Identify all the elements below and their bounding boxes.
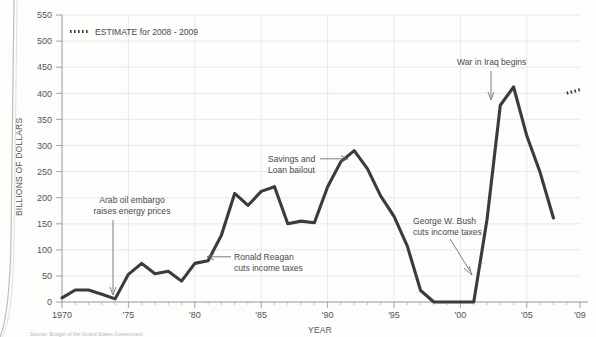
- y-tick-label: 300: [37, 141, 52, 151]
- annotation-line: War in Iraq begins: [457, 57, 526, 67]
- x-tick-label: '09: [574, 310, 586, 320]
- y-tick-label: 250: [37, 167, 52, 177]
- x-tick-marks: [62, 302, 580, 308]
- y-tick-label: 0: [47, 297, 52, 307]
- x-tick-label: '80: [189, 310, 201, 320]
- y-tick-label: 500: [37, 36, 52, 46]
- y-tick-marks: [56, 15, 62, 302]
- annotation-ronald-reagan: Ronald Reagan cuts income taxes: [207, 252, 303, 273]
- annotation-line: George W. Bush: [413, 216, 476, 226]
- chart-page: 550 500 450 400 350 300 250 200 150 100 …: [0, 0, 596, 337]
- y-tick-label: 350: [37, 115, 52, 125]
- x-tick-label: '05: [521, 310, 533, 320]
- estimate-line-series: [567, 90, 580, 94]
- y-tick-label: 200: [37, 193, 52, 203]
- chart-legend: ESTIMATE for 2008 - 2009: [70, 27, 198, 37]
- annotation-line: Savings and: [268, 154, 316, 164]
- x-tick-label: '75: [123, 310, 135, 320]
- x-tick-label: '90: [322, 310, 334, 320]
- y-tick-label: 50: [42, 271, 52, 281]
- annotation-line: cuts income taxes: [234, 263, 303, 273]
- annotation-line: Loan bailout: [268, 165, 315, 175]
- annotation-george-w-bush: George W. Bush cuts income taxes: [413, 216, 482, 275]
- x-tick-label: 1970: [52, 310, 72, 320]
- y-tick-label: 550: [37, 10, 52, 20]
- x-axis-title: YEAR: [308, 325, 332, 335]
- annotation-line: cuts income taxes: [413, 227, 482, 237]
- annotation-line: raises energy prices: [94, 206, 171, 216]
- y-axis-title: BILLIONS OF DOLLARS: [14, 118, 24, 216]
- y-tick-label: 450: [37, 62, 52, 72]
- x-tick-label: '95: [388, 310, 400, 320]
- horizontal-gridlines: [62, 15, 580, 276]
- y-tick-label: 100: [37, 245, 52, 255]
- y-tick-labels: 550 500 450 400 350 300 250 200 150 100 …: [37, 10, 52, 307]
- x-tick-label: '85: [255, 310, 267, 320]
- x-tick-label: '00: [455, 310, 467, 320]
- x-minor-tick-marks: [75, 302, 566, 305]
- annotation-line: Arab oil embargo: [99, 195, 165, 205]
- x-tick-labels: 1970 '75 '80 '85 '90 '95 '00 '05 '09: [52, 310, 586, 320]
- deficit-line-chart: 550 500 450 400 350 300 250 200 150 100 …: [0, 0, 596, 337]
- y-tick-label: 400: [37, 89, 52, 99]
- source-caption: Source: Budget of the United States Gove…: [30, 331, 143, 337]
- y-tick-label: 150: [37, 219, 52, 229]
- annotation-line: Ronald Reagan: [234, 252, 294, 262]
- legend-label: ESTIMATE for 2008 - 2009: [95, 27, 198, 37]
- annotation-arab-oil-embargo: Arab oil embargo raises energy prices: [94, 195, 171, 295]
